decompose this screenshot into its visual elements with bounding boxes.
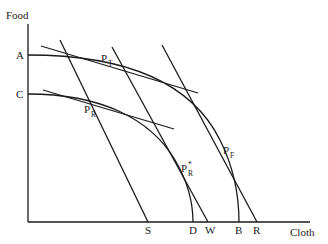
svg-text:*: * [188,160,192,169]
svg-text:T: T [108,59,113,68]
x-axis-label: Cloth [290,226,315,238]
point-pf: P F [223,144,234,160]
y-axis-label: Food [6,9,29,21]
label-c: C [16,88,23,100]
svg-text:F: F [230,151,234,160]
svg-text:R: R [188,169,193,178]
price-line-s [60,40,148,222]
price-line-r [162,45,257,222]
svg-text:P: P [101,52,107,64]
svg-text:P: P [223,144,229,156]
ppf-diagram: Food Cloth A C S D W B R P T P R P R * P… [0,0,328,244]
label-d: D [189,224,197,236]
svg-text:R: R [91,110,96,119]
label-a: A [16,49,24,61]
svg-text:P: P [84,103,90,115]
tangent-line-pr [43,90,174,129]
inner-ppf-curve [28,94,193,222]
label-s: S [145,224,151,236]
label-r: R [253,224,261,236]
outer-ppf-curve [28,55,239,222]
label-w: W [205,224,216,236]
price-line-w [112,47,208,222]
label-b: B [235,224,242,236]
svg-text:P: P [181,162,187,174]
diagram-canvas: Food Cloth A C S D W B R P T P R P R * P… [0,0,328,244]
